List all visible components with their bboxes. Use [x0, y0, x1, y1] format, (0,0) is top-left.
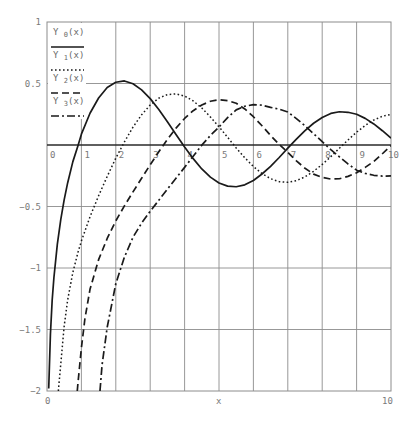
x-axis-bottom-labels: 0 x 10 [45, 396, 393, 406]
y-tick-label: −1 [30, 263, 41, 273]
x-tick-label: 6 [256, 150, 261, 160]
x-tick-labels-inner: 012345678910 [50, 150, 399, 160]
grid-lines [47, 22, 391, 391]
series-y0x-curve [49, 81, 391, 388]
y-tick-label: −2 [30, 386, 41, 396]
y-tick-label: 1 [36, 17, 41, 27]
series-y3x-curve [100, 105, 391, 391]
y-tick-labels: 10.5−0.5−1−1.5−2 [19, 17, 41, 396]
series-curves [49, 81, 391, 391]
x-tick-label: 9 [360, 150, 365, 160]
x-tick-label: 3 [153, 150, 158, 160]
legend: Y 0(x)Y 1(x)Y 2(x)Y 3(x) [48, 23, 86, 119]
y-tick-label: 0.5 [25, 79, 41, 89]
x-bottom-left-label: 0 [45, 396, 50, 406]
bessel-y-chart: 10.5−0.5−1−1.5−2 012345678910 0 x 10 Y 0… [0, 0, 419, 423]
x-tick-label: 5 [222, 150, 227, 160]
series-y1x-curve [58, 94, 391, 391]
x-bottom-right-label: 10 [382, 396, 393, 406]
x-tick-label: 1 [84, 150, 89, 160]
x-tick-label: 0 [50, 150, 55, 160]
series-y2x-curve [77, 100, 391, 391]
x-axis-label: x [216, 396, 222, 406]
y-tick-label: −0.5 [19, 202, 41, 212]
x-tick-label: 10 [388, 150, 399, 160]
y-tick-label: −1.5 [19, 325, 41, 335]
